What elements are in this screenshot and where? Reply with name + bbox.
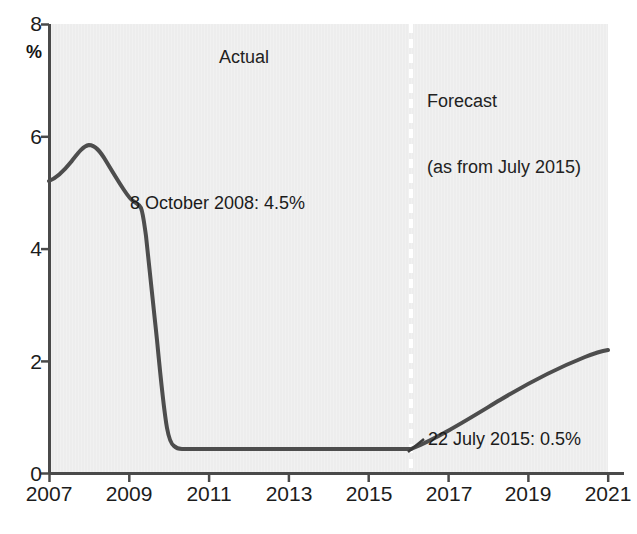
region-label-actual: Actual bbox=[219, 46, 269, 68]
region-label-forecast-line2: (as from July 2015) bbox=[427, 156, 581, 178]
x-tick-2011: 2011 bbox=[169, 482, 249, 506]
region-label-forecast: Forecast (as from July 2015) bbox=[427, 46, 581, 222]
x-tick-2019: 2019 bbox=[488, 482, 568, 506]
x-tick-2017: 2017 bbox=[409, 482, 489, 506]
y-tick-0-label: 0 bbox=[8, 463, 42, 484]
y-tick-4-label: 4 bbox=[8, 238, 42, 259]
y-tick-6-label: 6 bbox=[8, 126, 42, 147]
y-tick-2-label: 2 bbox=[8, 351, 42, 372]
x-tick-2007: 2007 bbox=[9, 482, 89, 506]
chart-container: 8 6 4 2 0 % 2007 2009 2011 2013 2015 201… bbox=[0, 0, 637, 534]
annotation-october-2008: 8 October 2008: 4.5% bbox=[130, 193, 305, 214]
region-label-forecast-line1: Forecast bbox=[427, 90, 581, 112]
x-tick-2021: 2021 bbox=[568, 482, 637, 506]
x-tick-2015: 2015 bbox=[329, 482, 409, 506]
x-tick-2009: 2009 bbox=[89, 482, 169, 506]
x-tick-2013: 2013 bbox=[249, 482, 329, 506]
y-axis-ticks bbox=[41, 25, 49, 474]
y-axis-unit-label: % bbox=[8, 42, 42, 63]
y-tick-8-label: 8 bbox=[8, 13, 42, 34]
annotation-july-2015: 22 July 2015: 0.5% bbox=[428, 429, 581, 450]
